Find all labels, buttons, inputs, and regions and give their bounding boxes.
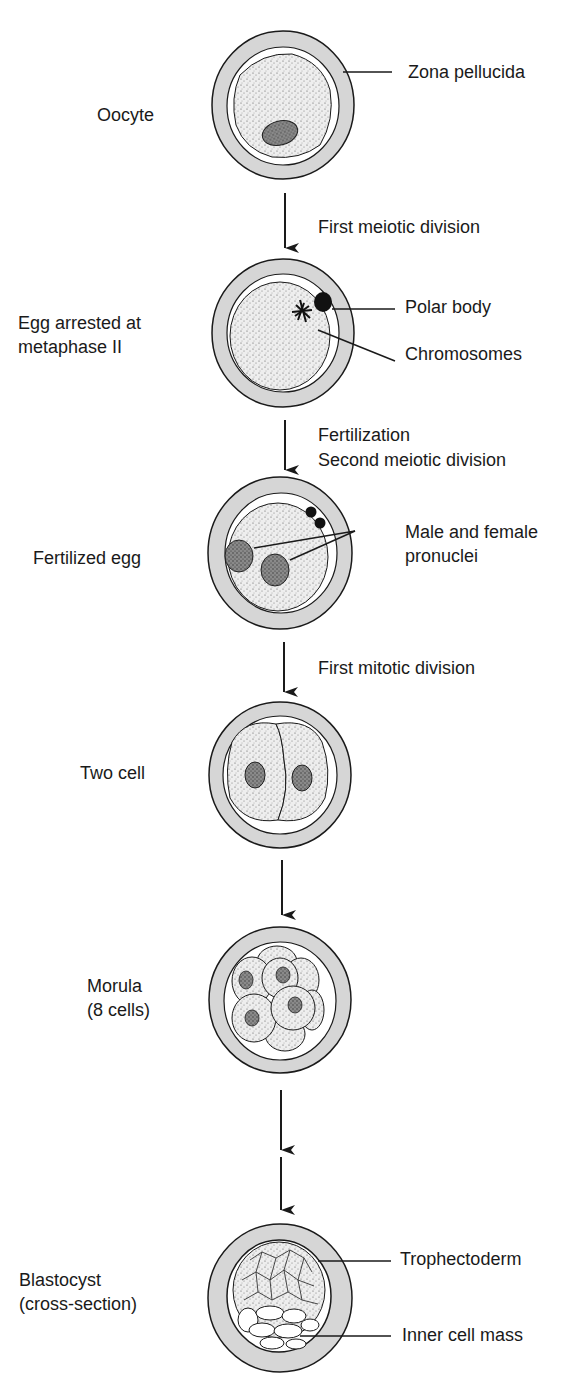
stage-label-metaphase-line2: metaphase II (18, 336, 122, 358)
pronucleus-male (261, 554, 289, 586)
transition-label-first-mitotic: First mitotic division (318, 657, 475, 679)
stage-label-metaphase-line1: Egg arrested at (18, 312, 141, 334)
fertilized-egg-illustration (208, 477, 352, 629)
transition-label-first-meiotic: First meiotic division (318, 216, 480, 238)
nucleus-left (245, 762, 265, 788)
blastocyst-illustration (208, 1224, 352, 1372)
stage-label-morula-line2: (8 cells) (87, 999, 150, 1021)
stage-label-fertilized-egg: Fertilized egg (33, 547, 141, 569)
stage-label-oocyte: Oocyte (97, 104, 154, 126)
annotation-polar-body: Polar body (405, 296, 491, 318)
pronucleus-female (225, 540, 253, 572)
nucleus-right (292, 765, 312, 791)
annotation-inner-cell-mass: Inner cell mass (402, 1324, 523, 1346)
embryo-development-diagram (0, 0, 583, 1395)
stage-label-two-cell: Two cell (80, 762, 145, 784)
polar-body-2 (315, 518, 326, 529)
annotation-trophectoderm: Trophectoderm (400, 1248, 521, 1270)
annotation-chromosomes: Chromosomes (405, 343, 522, 365)
morula-illustration (209, 927, 351, 1073)
annotation-zona-pellucida: Zona pellucida (408, 61, 525, 83)
annotation-pronuclei-line2: pronuclei (405, 545, 478, 567)
annotation-pronuclei-line1: Male and female (405, 521, 538, 543)
metaphase-egg-illustration (212, 259, 354, 407)
oocyte-illustration (212, 31, 354, 179)
two-cell-illustration (209, 702, 351, 848)
stage-label-morula-line1: Morula (87, 975, 142, 997)
polar-body-1 (306, 507, 317, 518)
polar-body (314, 292, 332, 312)
stage-label-blastocyst-line1: Blastocyst (19, 1269, 101, 1291)
transition-label-second-meiotic: Second meiotic division (318, 449, 506, 471)
transition-label-fertilization: Fertilization (318, 424, 410, 446)
stage-label-blastocyst-line2: (cross-section) (19, 1293, 137, 1315)
